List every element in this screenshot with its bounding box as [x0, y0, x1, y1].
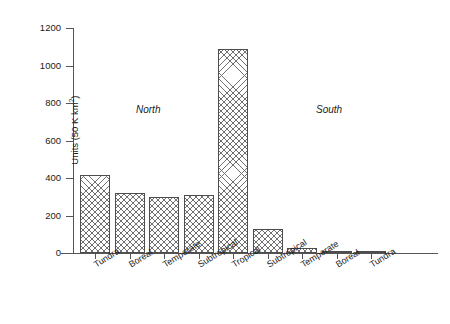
y-tick-label: 800: [21, 98, 61, 108]
bar: [218, 49, 248, 253]
y-tick-label: 200: [21, 211, 61, 221]
y-tick-label: 1000: [21, 61, 61, 71]
y-tick-mark: [66, 216, 73, 217]
figure-bar-chart: Units (50 K km2) 1200 1000 800 600 400 2…: [0, 0, 450, 324]
y-tick-label: 600: [21, 136, 61, 146]
annotation-south: South: [316, 104, 342, 115]
y-tick-mark: [66, 66, 73, 67]
y-tick-mark: [66, 141, 73, 142]
bar: [80, 175, 110, 253]
annotation-north: North: [136, 104, 160, 115]
y-tick-label: 0: [21, 248, 61, 258]
y-tick-mark: [66, 253, 73, 254]
y-tick-label: 1200: [21, 23, 61, 33]
y-tick-label: 400: [21, 173, 61, 183]
y-tick-mark: [66, 178, 73, 179]
bar: [149, 197, 179, 253]
bar-series: [73, 28, 443, 253]
bar: [115, 193, 145, 253]
plot-area: Units (50 K km2) 1200 1000 800 600 400 2…: [73, 28, 443, 253]
y-tick-mark: [66, 103, 73, 104]
y-tick-mark: [66, 28, 73, 29]
